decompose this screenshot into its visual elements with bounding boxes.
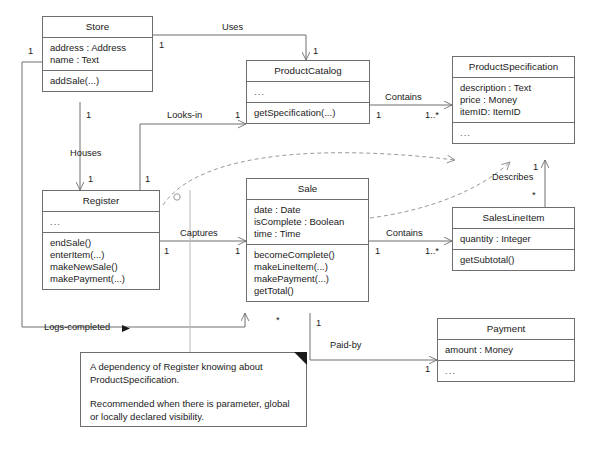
multiplicity-spec-contains: 1..*	[425, 110, 439, 121]
association-label-captures: Captures	[180, 228, 218, 239]
uml-class-diagram: Store address : Address name : Text addS…	[0, 0, 591, 459]
attribute-row: name : Text	[50, 54, 146, 66]
association-label-logs-completed: Logs-completed	[44, 322, 110, 333]
operation-row: ...	[460, 127, 568, 139]
operation-row: getTotal()	[254, 285, 362, 297]
attribute-row: isComplete : Boolean	[254, 216, 362, 228]
operation-row: becomeComplete()	[254, 249, 362, 261]
class-product-specification[interactable]: ProductSpecification description : Text …	[452, 56, 575, 144]
class-product-catalog-operations: getSpecification(...)	[247, 103, 369, 123]
attribute-row: date : Date	[254, 204, 362, 216]
class-sale[interactable]: Sale date : Date isComplete : Boolean ti…	[246, 178, 369, 302]
attribute-row: description : Text	[460, 82, 568, 94]
multiplicity-catalog-contains: 1	[376, 110, 381, 121]
class-payment-operations: ...	[438, 361, 574, 381]
association-label-houses: Houses	[70, 148, 102, 159]
class-register-operations: endSale() enterItem(...) makeNewSale() m…	[43, 233, 159, 289]
class-payment-attributes: amount : Money	[438, 340, 574, 361]
note-paragraph-1: A dependency of Register knowing about P…	[90, 360, 297, 386]
note-paragraph-2: Recommended when there is parameter, glo…	[90, 397, 297, 423]
multiplicity-payment-paid-by: 1	[425, 364, 430, 375]
association-label-looks-in: Looks-in	[167, 110, 202, 121]
multiplicity-store-houses: 1	[86, 110, 91, 121]
association-label-describes: Describes	[492, 172, 533, 183]
multiplicity-line-describes: *	[532, 190, 536, 201]
attribute-row: address : Address	[50, 42, 146, 54]
class-sales-line-item-operations: getSubtotal()	[453, 250, 574, 270]
multiplicity-sale-logs-star: *	[276, 315, 280, 326]
class-product-specification-operations: ...	[453, 123, 574, 143]
operation-row: endSale()	[50, 237, 153, 249]
multiplicity-store-uses: 1	[159, 40, 164, 51]
multiplicity-sale-paid-by: 1	[316, 318, 321, 329]
attribute-row: ...	[50, 216, 153, 228]
multiplicity-sale-captures: 1	[235, 246, 240, 257]
attribute-row: price : Money	[460, 94, 568, 106]
attribute-row: time : Time	[254, 228, 362, 240]
class-store-title: Store	[43, 17, 152, 38]
operation-row: getSubtotal()	[460, 254, 568, 266]
operation-row: getSpecification(...)	[254, 107, 363, 119]
class-product-specification-title: ProductSpecification	[453, 57, 574, 78]
association-label-contains-catalog: Contains	[385, 92, 422, 103]
class-payment[interactable]: Payment amount : Money ...	[437, 318, 575, 382]
operation-row: ...	[445, 365, 568, 377]
multiplicity-register-looks-in: 1	[145, 174, 150, 185]
note-spacer	[90, 386, 297, 397]
operation-row: addSale(...)	[50, 75, 146, 87]
class-product-specification-attributes: description : Text price : Money itemID:…	[453, 78, 574, 123]
multiplicity-sale-contains: 1	[375, 246, 380, 257]
attribute-row: ...	[254, 86, 363, 98]
association-label-paid-by: Paid-by	[330, 340, 362, 351]
multiplicity-spec-describes: 1	[533, 162, 538, 173]
class-store-attributes: address : Address name : Text	[43, 38, 152, 71]
class-register-attributes: ...	[43, 212, 159, 233]
class-store-operations: addSale(...)	[43, 71, 152, 91]
class-sales-line-item[interactable]: SalesLineItem quantity : Integer getSubt…	[452, 207, 575, 271]
note-folded-corner-icon	[294, 352, 307, 365]
operation-row: makeNewSale()	[50, 261, 153, 273]
class-product-catalog[interactable]: ProductCatalog ... getSpecification(...)	[246, 60, 370, 124]
class-product-catalog-attributes: ...	[247, 82, 369, 103]
association-label-contains-sale: Contains	[386, 228, 423, 239]
note-box[interactable]: A dependency of Register knowing about P…	[80, 352, 307, 427]
multiplicity-register-houses: 1	[88, 174, 93, 185]
operation-row: makePayment(...)	[50, 273, 153, 285]
operation-row: enterItem(...)	[50, 249, 153, 261]
class-register-title: Register	[43, 191, 159, 212]
operation-row: makePayment(...)	[254, 273, 362, 285]
multiplicity-catalog-looks-in: 1	[235, 110, 240, 121]
class-sale-operations: becomeComplete() makeLineItem(...) makeP…	[247, 245, 368, 301]
multiplicity-store-left: 1	[28, 46, 33, 57]
class-product-catalog-title: ProductCatalog	[247, 61, 369, 82]
attribute-row: amount : Money	[445, 344, 568, 356]
attribute-row: quantity : Integer	[460, 233, 568, 245]
association-label-uses: Uses	[222, 22, 243, 33]
class-store[interactable]: Store address : Address name : Text addS…	[42, 16, 153, 92]
class-sale-title: Sale	[247, 179, 368, 200]
attribute-row: itemID: ItemID	[460, 106, 568, 118]
multiplicity-catalog-uses: 1	[313, 46, 318, 57]
class-payment-title: Payment	[438, 319, 574, 340]
operation-row: makeLineItem(...)	[254, 261, 362, 273]
class-sale-attributes: date : Date isComplete : Boolean time : …	[247, 200, 368, 245]
class-sales-line-item-title: SalesLineItem	[453, 208, 574, 229]
multiplicity-register-captures: 1	[164, 246, 169, 257]
class-register[interactable]: Register ... endSale() enterItem(...) ma…	[42, 190, 160, 290]
multiplicity-line-contains: 1..*	[425, 246, 439, 257]
class-sales-line-item-attributes: quantity : Integer	[453, 229, 574, 250]
